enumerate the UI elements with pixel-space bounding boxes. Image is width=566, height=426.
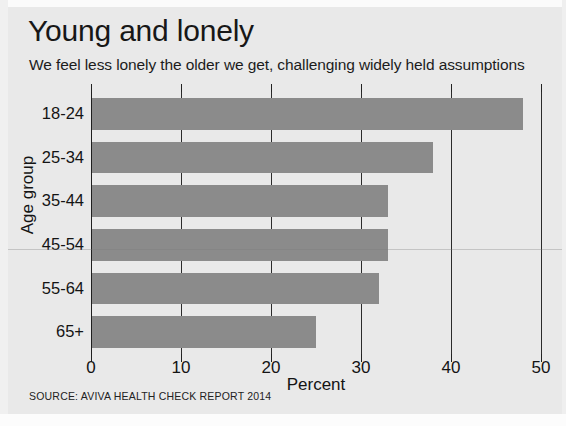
plot-area [91, 92, 541, 354]
x-tick-label: 0 [86, 358, 95, 378]
bar [91, 185, 388, 216]
bar [91, 142, 433, 173]
x-tick-mark-top [541, 84, 542, 92]
x-tick-label: 50 [532, 358, 551, 378]
y-tick-label: 65+ [56, 322, 84, 341]
x-tick-mark-top [271, 84, 272, 92]
bar [91, 229, 388, 260]
x-tick-mark-top [361, 84, 362, 92]
bar-fill [91, 185, 388, 216]
grid-line [541, 92, 542, 354]
x-tick-mark-top [451, 84, 452, 92]
y-tick-label: 25-34 [42, 148, 84, 167]
bar-fill [91, 273, 379, 304]
bar [91, 273, 379, 304]
bar [91, 316, 316, 347]
bar-fill [91, 98, 523, 129]
scan-edge-bottom [0, 414, 566, 426]
x-tick-label: 10 [172, 358, 191, 378]
y-tick-label: 55-64 [42, 279, 84, 298]
paper-fold-line [8, 249, 562, 250]
x-axis-label: Percent [287, 375, 346, 395]
x-tick-label: 40 [442, 358, 461, 378]
y-tick-label: 18-24 [42, 104, 84, 123]
bar-fill [91, 229, 388, 260]
chart-figure: Young and lonely We feel less lonely the… [0, 0, 566, 426]
bar-fill [91, 142, 433, 173]
bar [91, 98, 523, 129]
y-axis-label: Age group [18, 135, 38, 255]
y-tick-label: 45-54 [42, 235, 84, 254]
bar-series [91, 92, 541, 354]
source-note: SOURCE: AVIVA HEALTH CHECK REPORT 2014 [29, 390, 271, 402]
y-axis-ticks: 18-2425-3435-4445-5455-6465+ [0, 92, 84, 354]
x-tick-mark-top [91, 84, 92, 92]
y-tick-label: 35-44 [42, 191, 84, 210]
bar-fill [91, 316, 316, 347]
x-tick-mark-top [181, 84, 182, 92]
x-tick-label: 30 [352, 358, 371, 378]
x-tick-label: 20 [262, 358, 281, 378]
y-axis-line [91, 92, 92, 354]
